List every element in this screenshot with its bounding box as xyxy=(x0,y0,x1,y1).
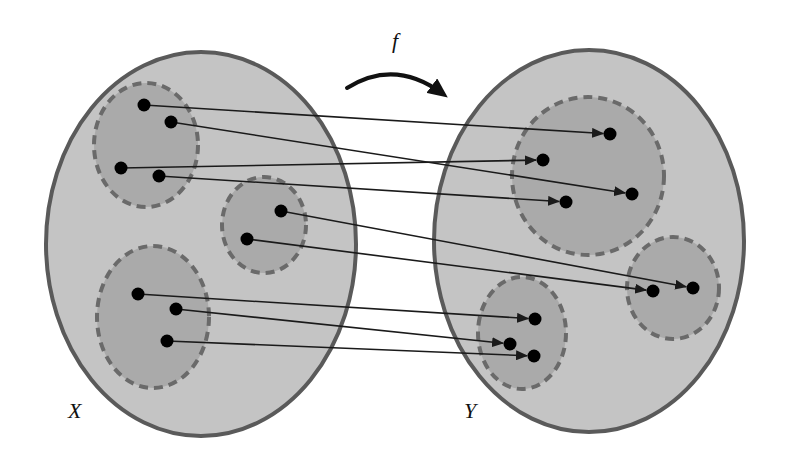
element-point xyxy=(647,285,660,298)
element-point xyxy=(528,350,541,363)
set-x xyxy=(46,52,356,436)
diagram-canvas xyxy=(0,0,786,463)
subset-dashed xyxy=(512,97,664,255)
element-point xyxy=(537,154,550,167)
element-point xyxy=(115,162,128,175)
element-point xyxy=(138,99,151,112)
subset-dashed xyxy=(97,246,209,388)
element-point xyxy=(687,282,700,295)
element-point xyxy=(275,205,288,218)
element-point xyxy=(604,128,617,141)
element-point xyxy=(170,303,183,316)
element-point xyxy=(165,116,178,129)
function-label: f xyxy=(392,30,398,52)
set-label-y: Y xyxy=(464,400,476,422)
set-y xyxy=(434,50,744,432)
function-mapping-diagram: f X Y xyxy=(0,0,786,463)
subset-dashed xyxy=(478,277,566,389)
set-label-x: X xyxy=(68,400,81,422)
function-arrow-icon xyxy=(347,74,443,94)
element-point xyxy=(626,188,639,201)
element-point xyxy=(161,335,174,348)
sets-layer xyxy=(46,50,744,436)
subset-dashed xyxy=(222,177,306,273)
subset-dashed xyxy=(627,237,719,339)
element-point xyxy=(241,233,254,246)
element-point xyxy=(504,338,517,351)
element-point xyxy=(529,313,542,326)
function-arrow-layer xyxy=(347,74,443,94)
element-point xyxy=(153,170,166,183)
element-point xyxy=(132,288,145,301)
set-boundary xyxy=(46,52,356,436)
element-point xyxy=(560,196,573,209)
